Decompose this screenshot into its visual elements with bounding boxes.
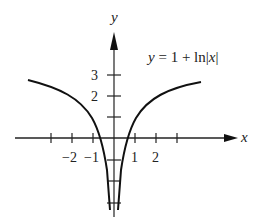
x-axis-label: x — [240, 129, 248, 145]
x-tick-label-m2: −2 — [62, 150, 77, 165]
curve-right-branch — [118, 82, 201, 210]
y-axis-label: y — [109, 9, 118, 25]
y-axis-arrow-icon — [110, 32, 118, 50]
x-tick-label-2: 2 — [152, 150, 159, 165]
y-tick-label-3: 3 — [91, 68, 98, 83]
x-axis-arrow-icon — [224, 134, 238, 142]
chart: y x 3 2 −2 −1 1 2 y = 1 + ln|x| — [0, 0, 253, 217]
x-tick-label-1: 1 — [131, 150, 138, 165]
y-tick-label-2: 2 — [91, 89, 98, 104]
equation-label: y = 1 + ln|x| — [146, 49, 218, 65]
x-tick-label-m1: −1 — [84, 150, 99, 165]
